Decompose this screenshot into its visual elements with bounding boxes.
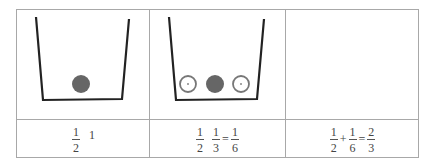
diagram-drawings [0, 0, 434, 167]
filled-ball-icon [72, 75, 90, 93]
filled-ball-icon [206, 75, 224, 93]
open-ball-icon [233, 76, 249, 92]
open-ball-icon [180, 76, 196, 92]
